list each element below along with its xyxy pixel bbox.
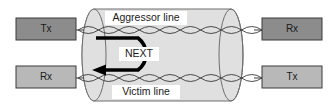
crosstalk-diagram: TxRxRxTx Aggressor line Victim line NEXT (0, 0, 336, 110)
endpoint-bottom-right[interactable]: Tx (262, 66, 322, 88)
endpoint-top-left[interactable]: Tx (16, 18, 76, 40)
endpoint-label: Rx (286, 23, 298, 34)
endpoint-bottom-left[interactable]: Rx (16, 66, 76, 88)
wire-segment (242, 75, 262, 79)
endpoint-label: Tx (40, 23, 51, 34)
wire-segment (242, 78, 262, 82)
endpoint-top-right[interactable]: Rx (262, 18, 322, 40)
cable-left-end-ellipse (82, 9, 106, 101)
next-label: NEXT (125, 47, 154, 59)
victim-line-label: Victim line (122, 85, 170, 97)
aggressor-line-label: Aggressor line (112, 11, 179, 23)
endpoint-label: Tx (286, 71, 297, 82)
diagram-canvas: TxRxRxTx Aggressor line Victim line NEXT (0, 0, 336, 110)
endpoint-label: Rx (40, 71, 52, 82)
wire-segment (242, 27, 262, 31)
wire-segment (242, 30, 262, 34)
next-label-group: NEXT (119, 47, 159, 61)
